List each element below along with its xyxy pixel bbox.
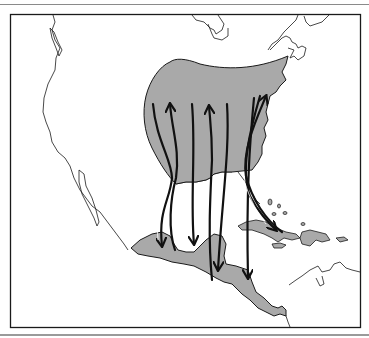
migration-map [0,0,369,338]
baja-outline [79,170,99,226]
hudson-outline-2 [208,24,228,40]
west-coast-outline [43,15,128,250]
bahamas-islands [268,199,305,226]
south-america-outline [289,262,360,285]
breeding-range [144,56,288,184]
puerto-rico-island [336,237,348,242]
route-3-southbound [192,104,194,244]
wintering-range-central-america [131,232,286,316]
venezuela-island-outline [316,276,324,286]
quebec-coast-outline [268,15,298,50]
jamaica-island [272,243,286,248]
newfoundland-outline [304,14,330,26]
hispaniola-island [300,230,330,246]
